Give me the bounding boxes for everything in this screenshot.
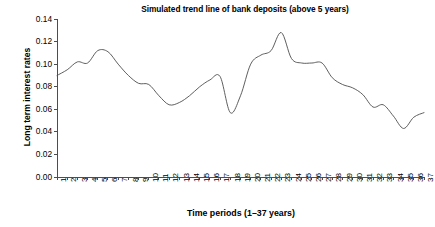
x-axis-tick-label: 18 [234,173,242,182]
x-axis-tick-label: 22 [274,173,282,182]
x-axis-tick-label: 12 [172,173,180,182]
x-axis-tick-label: 33 [386,173,394,182]
x-axis-tick-label: 25 [305,173,313,182]
x-axis-tick-label: 16 [213,173,221,182]
x-axis-tick-label: 35 [407,173,415,182]
x-axis-tick-label: 21 [264,173,272,182]
x-axis-tick-label: 11 [162,174,170,182]
x-axis-tick-label: 4 [91,177,99,182]
x-axis-tick-label: 23 [284,173,292,182]
x-axis-tick-label: 30 [356,173,364,182]
x-axis-tick-label: 6 [111,177,119,182]
x-axis-tick-label: 27 [325,173,333,182]
x-axis-tick-label: 19 [244,173,252,182]
x-axis-tick-label: 7 [121,177,129,182]
x-axis-tick-label: 37 [427,173,435,182]
x-axis-tick-label: 14 [193,173,201,182]
x-axis-tick-label: 31 [366,173,374,182]
x-axis-tick-label: 32 [376,173,384,182]
x-axis-tick-label: 24 [295,173,303,182]
x-axis-tick-label: 13 [183,173,191,182]
x-axis-tick-label: 5 [101,177,109,182]
x-axis-tick-label: 20 [254,173,262,182]
x-axis-tick-label: 26 [315,173,323,182]
x-axis-tick-label: 3 [81,177,89,182]
x-axis-tick-label: 17 [223,173,231,182]
x-axis-tick-label: 15 [203,173,211,182]
x-axis-tick-label: 28 [335,173,343,182]
x-axis-tick-label: 36 [417,173,425,182]
x-axis-tick-label: 9 [142,177,150,182]
x-axis-tick-label: 2 [70,177,78,182]
x-axis-tick-label: 29 [346,173,354,182]
x-axis-tick-label: 1 [60,177,68,182]
x-axis-tick-label: 34 [397,173,405,182]
x-axis-tick-label: 10 [152,173,160,182]
x-axis-tick-label: 8 [132,177,140,182]
